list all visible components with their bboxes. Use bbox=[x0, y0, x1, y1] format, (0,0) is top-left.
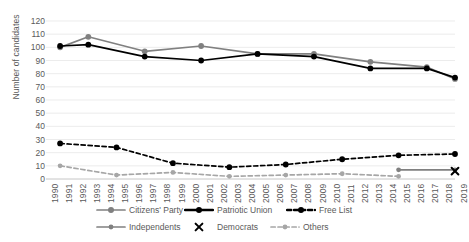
data-point-marker bbox=[396, 152, 402, 158]
series-independents bbox=[396, 167, 457, 172]
legend-item-label: Democrats bbox=[217, 222, 258, 232]
legend-item-label: Free List bbox=[319, 205, 352, 215]
legend-swatch-icon bbox=[96, 222, 126, 232]
legend-row: IndependentsDemocratsOthers bbox=[96, 218, 396, 235]
data-point-marker bbox=[227, 174, 232, 179]
data-point-marker bbox=[198, 43, 204, 49]
legend-item-free-list[interactable]: Free List bbox=[286, 201, 364, 218]
data-point-marker bbox=[367, 66, 373, 72]
data-point-marker bbox=[114, 145, 120, 151]
series-citizens-party bbox=[57, 34, 458, 82]
data-point-marker bbox=[58, 163, 63, 168]
legend-item-patriotic-union[interactable]: Patriotic Union bbox=[184, 201, 286, 218]
data-point-marker bbox=[396, 174, 401, 179]
data-point-marker bbox=[283, 162, 289, 168]
legend-item-label: Patriotic Union bbox=[217, 205, 272, 215]
data-point-marker bbox=[452, 75, 458, 81]
data-point-marker bbox=[85, 34, 91, 40]
data-point-marker bbox=[424, 66, 430, 72]
legend-swatch-icon bbox=[184, 222, 214, 232]
data-point-marker bbox=[85, 42, 91, 48]
legend-item-label: Others bbox=[303, 222, 329, 232]
legend-swatch-icon bbox=[96, 205, 126, 215]
data-point-marker bbox=[114, 173, 119, 178]
data-point-marker bbox=[226, 164, 232, 170]
data-point-marker bbox=[171, 170, 176, 175]
series-line bbox=[60, 45, 455, 78]
legend-item-label: Independents bbox=[129, 222, 181, 232]
data-point-marker bbox=[57, 43, 63, 49]
data-point-marker bbox=[198, 58, 204, 64]
legend-item-label: Citizens' Party bbox=[129, 205, 183, 215]
data-point-marker bbox=[142, 48, 148, 54]
chart-legend: Citizens' PartyPatriotic UnionFree ListI… bbox=[96, 201, 396, 235]
data-point-marker bbox=[283, 173, 288, 178]
legend-item-others[interactable]: Others bbox=[270, 218, 348, 235]
legend-row: Citizens' PartyPatriotic UnionFree List bbox=[96, 201, 396, 218]
data-point-marker bbox=[142, 54, 148, 60]
data-point-marker bbox=[396, 167, 401, 172]
data-point-marker bbox=[367, 59, 373, 65]
legend-swatch-icon bbox=[286, 205, 316, 215]
data-point-marker bbox=[57, 141, 63, 147]
data-point-marker bbox=[311, 54, 317, 60]
legend-swatch-icon bbox=[184, 205, 214, 215]
data-point-marker bbox=[255, 51, 261, 57]
data-point-marker bbox=[170, 160, 176, 166]
data-point-marker bbox=[340, 171, 345, 176]
legend-item-citizens-party[interactable]: Citizens' Party bbox=[96, 201, 184, 218]
series-line bbox=[60, 37, 455, 79]
data-point-marker bbox=[339, 156, 345, 162]
legend-item-independents[interactable]: Independents bbox=[96, 218, 184, 235]
legend-item-democrats[interactable]: Democrats bbox=[184, 218, 270, 235]
data-point-marker bbox=[452, 151, 458, 157]
legend-swatch-icon bbox=[270, 222, 300, 232]
